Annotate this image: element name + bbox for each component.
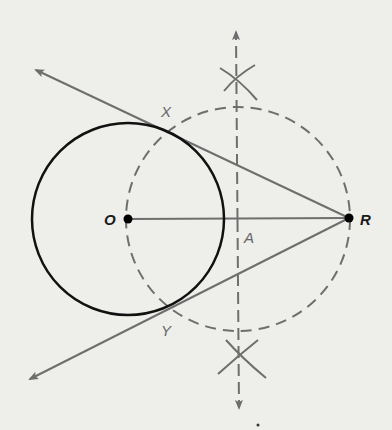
perpendicular-bisector-up [236,32,238,220]
label-Y: Y [161,322,172,339]
point-O [124,215,133,224]
label-O: O [104,211,116,228]
perpendicular-bisector-down [238,220,240,408]
label-A: A [243,229,254,246]
arc-mark-bottom [218,340,266,378]
label-R: R [360,211,371,228]
tangent-line-RY [30,218,349,379]
tangent-line-RX [36,70,349,218]
stray-dot [257,424,260,427]
point-R [345,214,354,223]
arc-mark-top [220,65,257,100]
label-X: X [160,103,172,120]
segment-OR [128,218,349,219]
tangent-construction-diagram: O R A X Y [0,0,392,430]
